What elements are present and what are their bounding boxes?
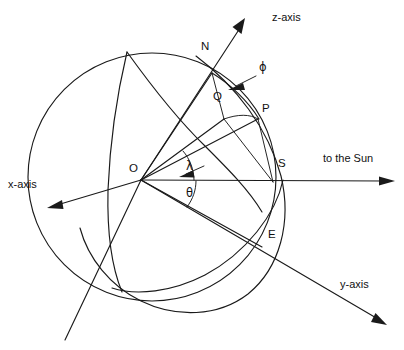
point-label-N: N [201,41,209,53]
angle-label-theta: θ [186,188,193,200]
z-axis-line [141,28,240,180]
point-label-Q: Q [213,91,222,103]
line-O-to-Q [141,119,224,180]
point-label-P: P [262,103,270,115]
line-O-to-P [141,119,258,180]
diagram-geometry [0,0,404,350]
axis-label-z: z-axis [272,12,301,23]
sun-ray-arrowhead [379,177,395,186]
angle-label-lambda: λ [186,161,193,173]
axis-label-x: x-axis [8,179,37,190]
z-axis-line-extension [65,180,141,340]
celestial-sphere-diagram: O N Q P S E ϕ λ θ z-axis y-axis x-axis t… [0,0,404,350]
x-axis-line [57,180,141,205]
point-label-S: S [278,158,286,170]
point-label-E: E [268,229,276,241]
equator-arc [112,180,283,292]
sun-ray-line [141,180,385,181]
y-axis-arrowhead [371,313,387,325]
meridian-arc-upper [127,52,262,212]
axis-label-y: y-axis [340,279,369,290]
sun-ray-label: to the Sun [323,153,373,164]
phi-pointer-line [236,76,256,86]
meridian-arc-left [108,52,127,292]
point-label-O: O [129,163,138,175]
sphere-outline [28,53,276,301]
z-axis-arrowhead [233,18,246,34]
terminator-arc [80,56,285,313]
angle-label-phi: ϕ [259,62,267,74]
x-axis-arrowhead [47,200,64,209]
